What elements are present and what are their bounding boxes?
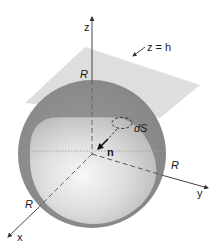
radius-label-top: R — [80, 68, 88, 80]
normal-label: n — [107, 146, 114, 158]
radius-label-left: R — [25, 198, 33, 210]
dS-label: dS — [134, 122, 148, 134]
sphere-plane-diagram: z z = h R dS n R y R x — [0, 0, 220, 249]
y-axis-label: y — [197, 187, 203, 199]
plane-pointer-arrow — [133, 47, 145, 56]
plane-label: z = h — [147, 41, 171, 53]
x-axis-label: x — [17, 231, 23, 243]
x-axis — [8, 208, 38, 237]
z-axis-label: z — [84, 21, 90, 33]
diagram-canvas: z z = h R dS n R y R x — [0, 0, 220, 249]
radius-label-right: R — [171, 159, 179, 171]
